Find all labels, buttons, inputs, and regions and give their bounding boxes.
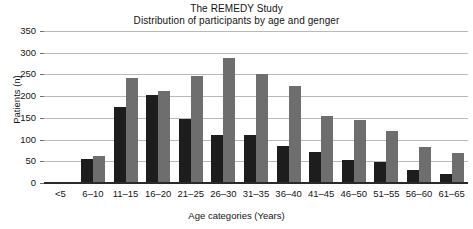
- bar-female: [223, 58, 235, 184]
- bar-group: [403, 32, 436, 184]
- bar-group: [272, 32, 305, 184]
- bar-group: [174, 32, 207, 184]
- bar-group: [44, 32, 77, 184]
- bar-male: [277, 146, 289, 184]
- bar-female: [93, 156, 105, 184]
- y-tick: 50: [0, 161, 44, 162]
- bar-male: [211, 135, 223, 184]
- plot-area: [44, 32, 468, 184]
- bar-group: [337, 32, 370, 184]
- y-tick: 350: [0, 31, 44, 32]
- bar-female: [126, 78, 138, 184]
- x-tick-label: <5: [44, 187, 77, 203]
- bar-female: [452, 153, 464, 184]
- bar-female: [386, 131, 398, 184]
- chart-figure: The REMEDY Study Distribution of partici…: [0, 0, 473, 229]
- chart-subtitle: Distribution of participants by age and …: [0, 15, 473, 27]
- y-tick: 150: [0, 118, 44, 119]
- bar-male: [309, 152, 321, 184]
- bar-male: [342, 160, 354, 184]
- y-tick-label: 50: [25, 155, 36, 166]
- bar-group: [435, 32, 468, 184]
- x-tick-label: 36–40: [272, 187, 305, 203]
- y-tick: 250: [0, 74, 44, 75]
- x-axis-line: [44, 182, 468, 184]
- bar-female: [158, 91, 170, 184]
- x-axis-label: Age categories (Years): [0, 210, 473, 221]
- x-tick-label: 21–25: [174, 187, 207, 203]
- y-tick: 200: [0, 96, 44, 97]
- bar-female: [191, 76, 203, 184]
- x-tick-label: 11–15: [109, 187, 142, 203]
- x-tick-label: 51–55: [370, 187, 403, 203]
- bar-groups: [44, 32, 468, 184]
- x-tick-label: 6–10: [77, 187, 110, 203]
- bar-female: [289, 86, 301, 184]
- bar-group: [240, 32, 273, 184]
- y-tick-label: 100: [20, 134, 36, 145]
- x-tick-label: 26–30: [207, 187, 240, 203]
- x-tick-label: 46–50: [337, 187, 370, 203]
- bar-male: [374, 162, 386, 184]
- bar-female: [256, 74, 268, 184]
- bar-male: [244, 135, 256, 184]
- bar-group: [305, 32, 338, 184]
- bar-male: [81, 159, 93, 184]
- bar-male: [114, 107, 126, 184]
- y-tick-label: 250: [20, 68, 36, 79]
- x-axis-ticks: <56–1011–1516–2021–2526–3031–3536–4041–4…: [44, 187, 468, 203]
- bar-female: [419, 147, 431, 184]
- y-tick: 100: [0, 140, 44, 141]
- y-tick-label: 300: [20, 47, 36, 58]
- x-tick-label: 61–65: [435, 187, 468, 203]
- y-tick: 300: [0, 53, 44, 54]
- x-tick-label: 41–45: [305, 187, 338, 203]
- y-tick-label: 200: [20, 90, 36, 101]
- bar-group: [77, 32, 110, 184]
- x-tick-label: 16–20: [142, 187, 175, 203]
- y-tick-label: 350: [20, 25, 36, 36]
- bar-group: [142, 32, 175, 184]
- x-tick-label: 31–35: [240, 187, 273, 203]
- bar-group: [109, 32, 142, 184]
- bar-female: [354, 120, 366, 184]
- y-tick-label: 0: [31, 177, 36, 188]
- y-axis-ticks: 050100150200250300350: [0, 32, 44, 184]
- title-block: The REMEDY Study Distribution of partici…: [0, 3, 473, 27]
- bar-group: [207, 32, 240, 184]
- x-tick-label: 56–60: [403, 187, 436, 203]
- y-tick: 0: [0, 183, 44, 184]
- chart-title: The REMEDY Study: [0, 3, 473, 15]
- bar-male: [146, 95, 158, 184]
- bar-female: [321, 116, 333, 184]
- bar-group: [370, 32, 403, 184]
- y-tick-label: 150: [20, 112, 36, 123]
- bar-male: [179, 119, 191, 184]
